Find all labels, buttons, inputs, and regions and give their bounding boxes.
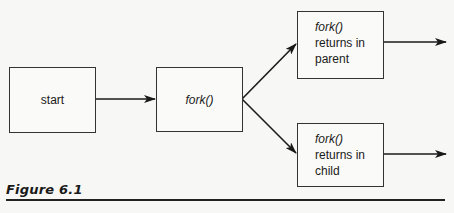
node-fork: fork() [156, 67, 243, 132]
figure-caption: Figure 6.1 [6, 182, 83, 197]
node-parent-line1: fork() [315, 19, 383, 35]
node-start-label: start [41, 92, 64, 108]
arrow-fork-to-parent [242, 44, 296, 99]
arrow-fork-to-child [242, 99, 296, 153]
node-child-line2: returns in [315, 147, 383, 163]
node-child-line1: fork() [315, 131, 383, 147]
node-parent-line3: parent [315, 51, 383, 67]
node-parent: fork() returns in parent [297, 11, 384, 79]
caption-rule [6, 199, 445, 201]
node-child-line3: child [315, 163, 383, 179]
node-start: start [9, 67, 96, 133]
node-child: fork() returns in child [297, 123, 384, 187]
node-fork-label: fork() [186, 92, 214, 108]
node-parent-line2: returns in [315, 35, 383, 51]
